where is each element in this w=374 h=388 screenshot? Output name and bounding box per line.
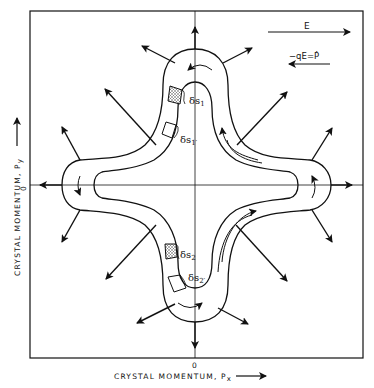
label-ds2-prime: δs2′ bbox=[188, 272, 206, 285]
arrow-ne bbox=[237, 92, 287, 145]
flow-top bbox=[188, 65, 212, 70]
cell-ds2 bbox=[165, 244, 177, 259]
arrow-bottom-right-lower bbox=[218, 308, 248, 324]
flow-bottom bbox=[178, 303, 202, 308]
brace-ds1 bbox=[182, 90, 185, 104]
arrow-bottom-left-lower bbox=[137, 304, 175, 323]
flow-upper-right bbox=[222, 128, 258, 160]
arrow-top-left-upper bbox=[142, 46, 175, 63]
arrow-left-lower bbox=[62, 210, 80, 242]
x-origin-label: 0 bbox=[192, 361, 197, 370]
arrow-se bbox=[236, 225, 287, 281]
cell-ds1 bbox=[168, 86, 182, 104]
y-axis-title: CRYSTAL MOMENTUM, Py bbox=[13, 158, 24, 276]
flow-lower-right bbox=[222, 211, 256, 262]
arrow-top-right-upper bbox=[223, 48, 252, 63]
label-ds2: δs2 bbox=[180, 249, 196, 262]
brace-ds2p bbox=[180, 275, 186, 285]
fermi-surface-diagram: δs1 δs1′ δs2 δs2′ E −qE=Ṗ 0 0 CRYSTAL MO… bbox=[0, 0, 374, 388]
velocity-arrows bbox=[40, 27, 352, 348]
arrow-right-lower bbox=[312, 210, 332, 242]
arrow-sw bbox=[106, 225, 156, 279]
arrow-left-upper bbox=[62, 127, 80, 160]
label-ds1: δs1 bbox=[189, 95, 205, 108]
field-label: E bbox=[304, 21, 310, 31]
force-label: −qE=Ṗ bbox=[289, 51, 319, 61]
flow-right bbox=[312, 176, 315, 198]
flow-left bbox=[78, 176, 80, 195]
arrow-right-upper bbox=[312, 128, 332, 160]
x-axis-title: CRYSTAL MOMENTUM, Px bbox=[114, 372, 232, 383]
arrow-nw bbox=[105, 89, 156, 145]
